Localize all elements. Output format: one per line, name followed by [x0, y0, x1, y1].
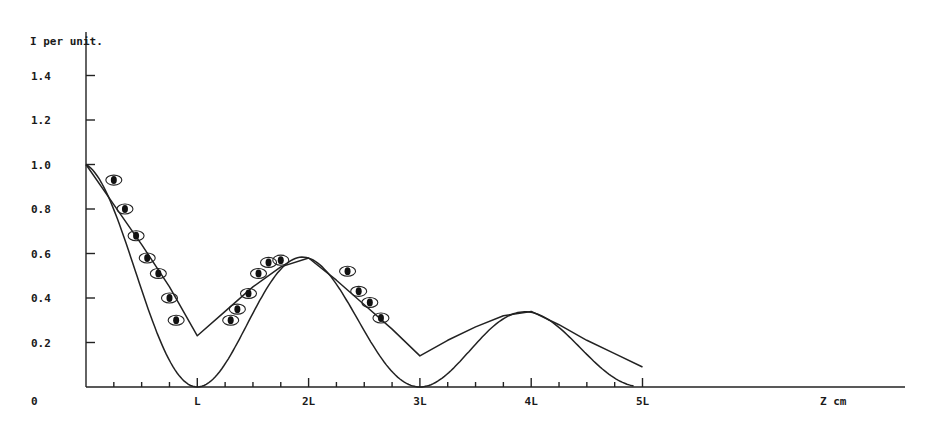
data-point [117, 204, 133, 214]
lower-theory-curve [86, 165, 634, 388]
x-tick-label: 3L [413, 395, 427, 408]
data-point [223, 315, 239, 325]
y-tick-label: 0.4 [31, 292, 51, 305]
axes [86, 32, 905, 387]
data-point [373, 313, 389, 323]
x-tick-label: 5L [636, 395, 650, 408]
data-point [251, 269, 267, 279]
origin-label: 0 [31, 395, 38, 408]
x-tick-label: 4L [525, 395, 539, 408]
data-point [139, 253, 155, 263]
data-point [229, 304, 245, 314]
y-tick-label: 1.2 [31, 114, 51, 127]
data-point [128, 231, 144, 241]
data-point [340, 266, 356, 276]
y-tick-label: 1.0 [31, 159, 51, 172]
x-tick-label: L [194, 395, 201, 408]
y-tick-label: 1.4 [31, 70, 51, 83]
data-point [362, 297, 378, 307]
x-axis-title: Z cm [820, 395, 847, 408]
x-ticks: L2L3L4L5L [114, 378, 650, 408]
curves [86, 165, 643, 388]
data-point [150, 269, 166, 279]
y-tick-label: 0.6 [31, 248, 51, 261]
upper-theory-curve [86, 165, 643, 368]
data-point [106, 175, 122, 185]
y-tick-label: 0.2 [31, 337, 51, 350]
data-markers [106, 175, 389, 325]
y-axis-title: I per unit. [30, 35, 103, 48]
data-point [351, 286, 367, 296]
data-point [240, 289, 256, 299]
y-tick-label: 0.8 [31, 203, 51, 216]
x-tick-label: 2L [302, 395, 316, 408]
data-point [168, 315, 184, 325]
chart: 0.20.40.60.81.01.21.4 L2L3L4L5L I per un… [0, 0, 930, 429]
